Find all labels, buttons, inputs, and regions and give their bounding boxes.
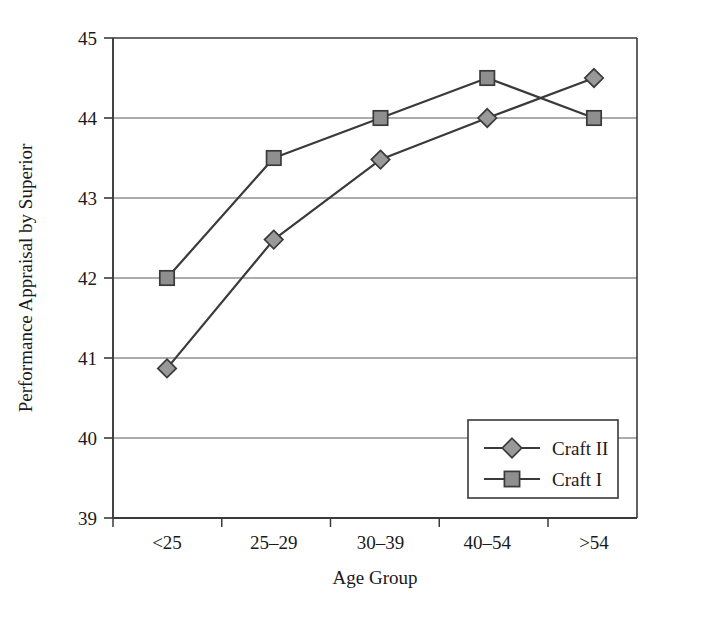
square-marker-icon bbox=[160, 271, 174, 285]
y-axis-ticks: 39404142434445 bbox=[78, 28, 113, 529]
square-marker-icon bbox=[373, 111, 387, 125]
y-tick-label: 39 bbox=[78, 508, 97, 529]
chart-figure: 39404142434445 <2525–2930–3940–54>54 Cra… bbox=[0, 0, 709, 622]
x-tick-label: 30–39 bbox=[357, 532, 405, 553]
square-marker-icon bbox=[267, 151, 281, 165]
x-tick-label: 40–54 bbox=[464, 532, 512, 553]
y-tick-label: 45 bbox=[78, 28, 97, 49]
y-axis-title: Performance Appraisal by Superior bbox=[15, 143, 36, 412]
y-tick-label: 40 bbox=[78, 428, 97, 449]
square-marker-icon bbox=[587, 111, 601, 125]
x-axis-ticks: <2525–2930–3940–54>54 bbox=[113, 518, 609, 553]
y-tick-label: 41 bbox=[78, 348, 97, 369]
y-tick-label: 44 bbox=[78, 108, 98, 129]
x-tick-label: >54 bbox=[579, 532, 609, 553]
x-axis-title: Age Group bbox=[333, 567, 418, 588]
legend-label: Craft II bbox=[552, 438, 608, 459]
legend-label: Craft I bbox=[552, 469, 602, 490]
square-marker-icon bbox=[480, 71, 494, 85]
square-marker-icon bbox=[504, 471, 519, 486]
x-tick-label: 25–29 bbox=[250, 532, 298, 553]
x-tick-label: <25 bbox=[152, 532, 182, 553]
line-chart: 39404142434445 <2525–2930–3940–54>54 Cra… bbox=[0, 0, 709, 622]
chart-legend[interactable]: Craft IICraft I bbox=[468, 420, 618, 498]
y-tick-label: 42 bbox=[78, 268, 97, 289]
y-tick-label: 43 bbox=[78, 188, 97, 209]
